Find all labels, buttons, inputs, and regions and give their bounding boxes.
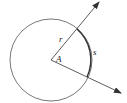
center-label: A (55, 54, 62, 64)
ray-upper (51, 2, 99, 60)
arc-label: s (93, 47, 97, 57)
ray-lower (51, 60, 121, 93)
arc-s (77, 29, 91, 77)
radius-label: r (59, 34, 63, 44)
circle-diagram: r s A (0, 0, 127, 103)
